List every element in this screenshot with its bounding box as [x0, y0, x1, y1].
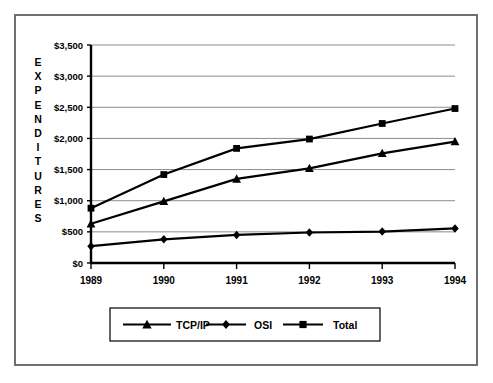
datapoint-osi-diamond-marker [160, 235, 167, 243]
legend-label-tcp-ip[interactable]: TCP/IP [176, 319, 210, 331]
datapoint-osi-diamond-marker [378, 227, 385, 236]
datapoint-osi-diamond-marker [306, 228, 313, 237]
datapoint-total-square-marker [379, 120, 386, 127]
datapoint-total-square-marker [306, 136, 313, 143]
datapoint-osi-diamond-marker [87, 242, 94, 251]
datapoint-total-square-marker [88, 205, 95, 212]
legend-label-osi[interactable]: OSI [254, 319, 272, 331]
y-axis-tick-label: $2,500 [54, 102, 83, 113]
datapoint-total-square-marker [160, 171, 167, 178]
y-axis-tick-label: $3,500 [54, 40, 83, 51]
datapoint-total-square-marker [452, 105, 459, 112]
x-axis-tick-label: 1990 [153, 275, 176, 286]
legend-total-square-marker [299, 321, 306, 328]
y-axis-tick-label: $2,000 [54, 133, 83, 144]
x-axis-tick-label: 1992 [298, 275, 321, 286]
x-axis-tick-label: 1991 [225, 275, 248, 286]
legend-label-total[interactable]: Total [333, 319, 357, 331]
chart-svg: $0$500$1,000$1,500$2,000$2,500$3,000$3,5… [0, 0, 493, 383]
y-axis-tick-label: $3,000 [54, 71, 83, 82]
line-chart: $0$500$1,000$1,500$2,000$2,500$3,000$3,5… [0, 0, 493, 383]
x-axis-tick-label: 1993 [371, 275, 394, 286]
x-axis-tick-label: 1989 [80, 275, 103, 286]
series-line-osi [91, 228, 455, 246]
datapoint-total-square-marker [233, 145, 240, 152]
y-axis-tick-label: $500 [62, 226, 83, 237]
y-axis-tick-label: $0 [72, 258, 83, 269]
series-line-total [91, 109, 455, 209]
y-axis-tick-label: $1,000 [54, 195, 83, 206]
x-axis-tick-label: 1994 [444, 275, 467, 286]
y-axis-tick-label: $1,500 [54, 164, 83, 175]
